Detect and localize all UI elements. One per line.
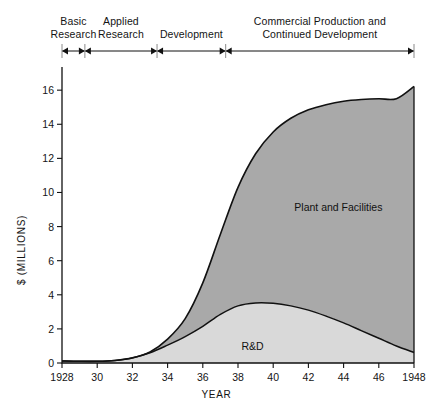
x-tick-label: 44: [338, 371, 350, 383]
x-tick-label: 1928: [50, 371, 73, 383]
y-axis-title: $ (MILLIONS): [16, 215, 27, 285]
y-tick-label: 4: [30, 289, 54, 301]
x-tick-label: 42: [303, 371, 315, 383]
x-tick-label: 38: [232, 371, 244, 383]
y-tick-label: 8: [30, 221, 54, 233]
y-tick-label: 6: [30, 255, 54, 267]
x-tick-label: 36: [197, 371, 209, 383]
x-axis-title: YEAR: [0, 389, 433, 400]
y-tick-label: 2: [30, 323, 54, 335]
y-tick-label: 12: [30, 152, 54, 164]
y-tick-label: 10: [30, 186, 54, 198]
series-label-rd: R&D: [242, 340, 264, 352]
y-tick-label: 16: [30, 84, 54, 96]
x-tick-label: 46: [373, 371, 385, 383]
x-tick-label: 34: [162, 371, 174, 383]
x-tick-label: 1948: [402, 371, 425, 383]
x-tick-label: 30: [91, 371, 103, 383]
x-tick-label: 40: [267, 371, 279, 383]
y-tick-label: 0: [30, 357, 54, 369]
x-tick-label: 32: [127, 371, 139, 383]
series-label-plant-and-facilities: Plant and Facilities: [294, 201, 382, 213]
y-tick-label: 14: [30, 118, 54, 130]
